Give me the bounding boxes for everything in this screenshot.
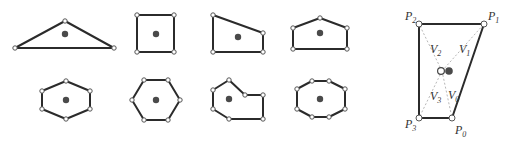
centroid-dot <box>153 97 159 103</box>
polygon-quadrilateral <box>211 13 265 54</box>
vertex-marker <box>64 79 68 83</box>
vertex-marker <box>243 93 247 97</box>
vertex-p3 <box>416 115 422 121</box>
vertex-p0 <box>449 115 455 121</box>
polygon-pentagon <box>291 16 349 51</box>
vertex-marker <box>345 26 349 30</box>
centroid-dot <box>62 31 68 37</box>
vertex-marker <box>211 50 215 54</box>
vertex-marker <box>291 47 295 51</box>
polygon-centroid-diagram: P2P1P3P0V2V1V3V0 <box>0 0 506 142</box>
vertex-marker <box>88 107 92 111</box>
vertex-marker <box>135 13 139 17</box>
polygon-edges <box>213 15 263 52</box>
vertex-marker <box>261 50 265 54</box>
centroid-dot <box>235 34 241 40</box>
vertex-marker <box>88 89 92 93</box>
vertex-marker <box>310 79 314 83</box>
vertex-marker <box>64 117 68 121</box>
label-v2: V2 <box>430 42 441 58</box>
vertex-marker <box>345 47 349 51</box>
centroid-dot <box>226 96 232 102</box>
polygon-concave-heptagon <box>211 78 265 121</box>
vertex-marker <box>135 50 139 54</box>
label-p0: P0 <box>454 123 466 139</box>
label-v0: V0 <box>448 88 459 104</box>
centroid-dot <box>153 31 159 37</box>
polygon-hexagon-flat <box>40 79 92 121</box>
vertex-marker <box>291 26 295 30</box>
vertex-marker <box>343 87 347 91</box>
vertex-marker <box>211 107 215 111</box>
vertex-marker <box>63 19 67 23</box>
polygon-examples <box>13 13 349 122</box>
vertex-marker <box>261 93 265 97</box>
vertex-marker <box>13 46 17 50</box>
vertex-marker <box>211 13 215 17</box>
polygon-hexagon-regular <box>130 78 182 122</box>
centroid-dot <box>317 96 323 102</box>
vertex-marker <box>310 115 314 119</box>
vertex-marker <box>227 78 231 82</box>
vertex-marker <box>142 78 146 82</box>
vertex-marker <box>295 87 299 91</box>
vertex-p2 <box>416 21 422 27</box>
origin-circle <box>438 68 445 75</box>
vertex-marker <box>295 107 299 111</box>
label-p2: P2 <box>404 9 416 25</box>
vertex-marker <box>142 118 146 122</box>
vertex-marker <box>227 117 231 121</box>
quadrilateral-decomposition-figure: P2P1P3P0V2V1V3V0 <box>404 9 499 139</box>
polygon-edges <box>213 80 263 119</box>
vertex-marker <box>327 115 331 119</box>
centroid-dot <box>63 97 69 103</box>
vertex-marker <box>327 79 331 83</box>
label-v1: V1 <box>459 42 470 58</box>
vertex-marker <box>318 16 322 20</box>
vertex-p1 <box>481 21 487 27</box>
vertex-marker <box>166 78 170 82</box>
vertex-marker <box>40 107 44 111</box>
vertex-marker <box>40 89 44 93</box>
centroid-dot <box>317 30 323 36</box>
vertex-marker <box>112 46 116 50</box>
vertex-marker <box>166 118 170 122</box>
vertex-marker <box>130 98 134 102</box>
label-p1: P1 <box>487 9 499 25</box>
label-p3: P3 <box>404 117 416 133</box>
vertex-marker <box>172 50 176 54</box>
vertex-marker <box>178 98 182 102</box>
vertex-marker <box>261 117 265 121</box>
polygon-octagon <box>295 79 347 119</box>
vertex-marker <box>172 13 176 17</box>
vertex-marker <box>261 31 265 35</box>
centroid-dot <box>445 67 453 75</box>
vertex-marker <box>211 88 215 92</box>
polygon-triangle <box>13 19 116 50</box>
vertex-marker <box>343 107 347 111</box>
polygon-square <box>135 13 176 54</box>
label-v3: V3 <box>430 89 441 105</box>
